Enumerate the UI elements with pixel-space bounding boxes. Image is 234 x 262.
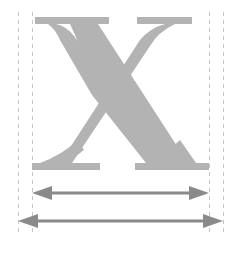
glyph-metrics-diagram	[0, 0, 234, 262]
bounding-box-width-arrow	[32, 186, 209, 200]
measurement-arrows	[18, 186, 223, 228]
advance-width-arrow	[18, 214, 223, 228]
glyph-x	[32, 17, 209, 170]
